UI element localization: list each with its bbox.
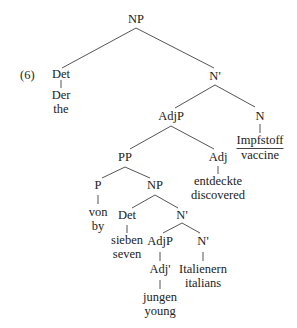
gloss-vaccine: vaccine: [241, 148, 279, 162]
gloss-young: young: [144, 304, 175, 318]
node-pp: PP: [118, 150, 132, 164]
word-sieben: sieben: [111, 233, 143, 247]
node-det-inner: Det: [118, 208, 136, 222]
node-n-head: N: [255, 109, 264, 123]
gloss-seven: seven: [113, 247, 141, 261]
gloss-the: the: [53, 102, 68, 116]
gloss-discovered: discovered: [191, 188, 245, 202]
gloss-italians: italians: [185, 276, 221, 290]
node-p: P: [95, 178, 102, 192]
word-von: von: [89, 205, 108, 219]
node-np-inner: NP: [147, 178, 163, 192]
word-italienern: Italienern: [179, 262, 227, 276]
word-der: Der: [52, 88, 71, 102]
word-impfstoff: Impfstoff: [237, 133, 284, 149]
word-entdeckte: entdeckte: [194, 174, 242, 188]
node-adj-top: Adj: [209, 150, 228, 164]
node-np-root: NP: [128, 12, 144, 26]
node-adjbar: Adj': [149, 262, 170, 276]
node-det-top: Det: [52, 67, 70, 81]
gloss-by: by: [92, 219, 105, 233]
word-jungen: jungen: [143, 290, 177, 304]
node-adjp-inner: AdjP: [147, 234, 173, 248]
node-nbar-low: N': [197, 234, 208, 248]
tree-edges: [0, 0, 297, 328]
node-nbar-top: N': [209, 69, 220, 83]
example-number: (6): [20, 68, 35, 82]
node-nbar-inner: N': [176, 208, 187, 222]
node-adjp-top: AdjP: [158, 109, 184, 123]
